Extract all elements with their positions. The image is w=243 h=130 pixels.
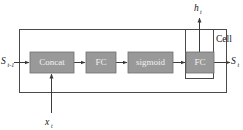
label-output-h-subscript: t: [200, 9, 202, 15]
block-sigmoid-label: sigmoid: [136, 57, 166, 67]
label-output-state-subscript: t: [238, 62, 240, 68]
label-output-state: S t: [231, 56, 240, 68]
label-input-x: x t: [44, 117, 53, 129]
block-fc2-label: FC: [194, 57, 205, 67]
label-input-state-base: S: [1, 56, 6, 66]
block-fc1-label: FC: [95, 57, 106, 67]
label-input-x-base: x: [44, 117, 50, 127]
block-fc2[interactable]: FC: [186, 52, 214, 73]
block-fc1[interactable]: FC: [86, 52, 116, 73]
label-input-state: S t-1: [1, 56, 14, 68]
label-output-h: h t: [194, 3, 202, 15]
label-output-h-base: h: [194, 3, 199, 13]
block-concat[interactable]: Concat: [30, 52, 74, 73]
label-output-state-base: S: [231, 56, 236, 66]
cell-block-diagram: Concat FC sigmoid FC Cell S t-1 S t x: [0, 0, 243, 130]
label-input-x-subscript: t: [51, 123, 53, 129]
diagram-canvas: Concat FC sigmoid FC Cell S t-1 S t x: [0, 0, 243, 130]
block-concat-label: Concat: [39, 57, 65, 67]
block-sigmoid[interactable]: sigmoid: [128, 52, 173, 73]
label-input-state-subscript: t-1: [8, 62, 15, 68]
cell-label: Cell: [216, 34, 232, 44]
